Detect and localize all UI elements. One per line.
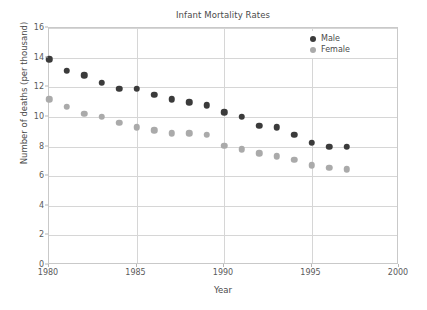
data-point-male: [238, 114, 245, 121]
y-tick-mark: [45, 115, 48, 116]
data-point-male: [203, 102, 210, 109]
x-tick-mark: [48, 264, 49, 267]
data-point-male: [63, 68, 70, 75]
data-point-male: [168, 96, 175, 103]
x-tick-mark: [311, 264, 312, 267]
data-point-female: [98, 114, 105, 121]
x-tick-label: 2000: [388, 268, 408, 277]
data-point-female: [81, 111, 88, 118]
gridline-horizontal: [49, 28, 397, 29]
data-point-female: [291, 157, 298, 164]
y-tick-mark: [45, 204, 48, 205]
data-point-male: [308, 140, 315, 147]
y-axis-tick-labels: 0246810121416: [22, 27, 44, 264]
data-point-male: [273, 124, 280, 131]
data-point-female: [326, 165, 333, 172]
legend-marker-male-icon: [310, 36, 316, 42]
data-point-female: [221, 143, 228, 150]
data-point-female: [343, 166, 350, 173]
legend-label-female: Female: [321, 45, 350, 54]
x-axis-label: Year: [48, 285, 398, 295]
y-tick-mark: [45, 86, 48, 87]
x-tick-mark: [398, 264, 399, 267]
data-point-female: [186, 130, 193, 137]
y-tick-label: 4: [39, 200, 44, 209]
data-point-male: [256, 123, 263, 130]
x-tick-label: 1990: [213, 268, 233, 277]
data-point-female: [151, 127, 158, 134]
gridline-vertical: [137, 28, 138, 263]
gridline-horizontal: [49, 235, 397, 236]
y-tick-label: 12: [34, 82, 44, 91]
data-point-female: [256, 150, 263, 157]
x-tick-mark: [223, 264, 224, 267]
gridline-horizontal: [49, 206, 397, 207]
data-point-female: [116, 120, 123, 127]
y-tick-mark: [45, 56, 48, 57]
legend-item-male: Male: [310, 33, 350, 44]
data-point-male: [133, 85, 140, 92]
data-point-female: [238, 146, 245, 153]
chart-legend: Male Female: [306, 31, 356, 58]
data-point-male: [343, 143, 350, 150]
data-point-male: [326, 143, 333, 150]
y-tick-mark: [45, 234, 48, 235]
y-tick-label: 2: [39, 230, 44, 239]
gridline-horizontal: [49, 176, 397, 177]
data-point-male: [81, 72, 88, 79]
data-point-female: [168, 130, 175, 137]
y-tick-label: 16: [34, 23, 44, 32]
data-point-male: [116, 85, 123, 92]
data-point-female: [203, 131, 210, 138]
x-tick-label: 1995: [300, 268, 320, 277]
data-point-female: [63, 103, 70, 110]
y-tick-label: 10: [34, 111, 44, 120]
data-point-female: [133, 124, 140, 131]
x-tick-label: 1980: [38, 268, 58, 277]
y-tick-label: 8: [39, 141, 44, 150]
x-tick-label: 1985: [125, 268, 145, 277]
data-point-female: [46, 96, 53, 103]
data-point-male: [221, 109, 228, 116]
y-tick-mark: [45, 175, 48, 176]
data-point-male: [98, 80, 105, 87]
y-tick-mark: [45, 145, 48, 146]
y-tick-label: 6: [39, 171, 44, 180]
data-point-female: [308, 162, 315, 169]
x-tick-mark: [136, 264, 137, 267]
chart-title: Infant Mortality Rates: [48, 10, 398, 20]
gridline-horizontal: [49, 87, 397, 88]
legend-marker-female-icon: [310, 47, 316, 53]
data-point-male: [151, 91, 158, 98]
data-point-female: [273, 153, 280, 160]
data-point-male: [186, 99, 193, 106]
data-point-male: [291, 131, 298, 138]
x-axis-tick-labels: 19801985199019952000: [0, 268, 427, 282]
legend-label-male: Male: [321, 34, 340, 43]
y-tick-label: 14: [34, 52, 44, 61]
y-tick-mark: [45, 27, 48, 28]
plot-area: [48, 27, 398, 264]
legend-item-female: Female: [310, 44, 350, 55]
chart-figure: Infant Mortality Rates Number of deaths …: [0, 0, 427, 310]
